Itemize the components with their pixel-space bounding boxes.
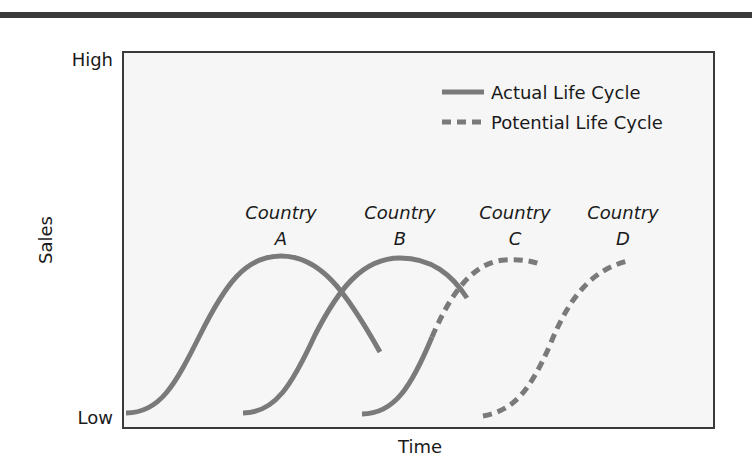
country-a-letter: A [274,228,287,249]
country-d-letter: D [616,228,630,249]
country-b-letter: B [394,228,406,249]
y-axis-high-label: High [72,49,113,70]
y-axis-low-label: Low [78,407,113,428]
legend-potential-label: Potential Life Cycle [491,112,663,133]
product-life-cycle-diagram: High Low Sales Time Actual Life Cycle Po… [0,0,752,475]
country-b-word: Country [364,202,436,223]
legend-actual-label: Actual Life Cycle [491,82,640,103]
country-a-word: Country [245,202,317,223]
x-axis-title: Time [397,436,442,457]
country-c-letter: C [509,228,522,249]
country-c-word: Country [479,202,551,223]
country-d-word: Country [587,202,659,223]
y-axis-title: Sales [35,216,56,264]
